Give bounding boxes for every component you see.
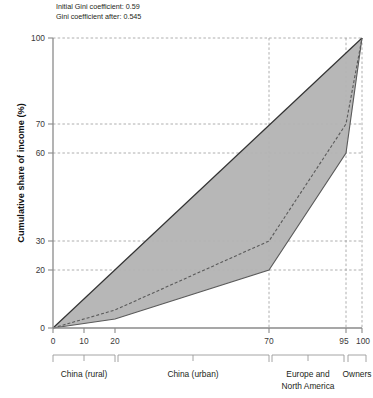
group-label-owners: Owners <box>343 369 372 379</box>
bracket-china-rural <box>53 355 115 362</box>
bracket-europe-north-america <box>272 355 344 362</box>
x-tick-label-95: 95 <box>339 336 349 346</box>
chart-root: Initial Gini coefficient: 0.59 Gini coef… <box>0 0 373 398</box>
x-tick-label-10: 10 <box>79 336 89 346</box>
x-tick-label-20: 20 <box>110 336 120 346</box>
group-label-china-urban: China (urban) <box>167 369 218 379</box>
y-tick-label-100: 100 <box>31 33 45 43</box>
x-tick-label-100: 100 <box>356 336 370 346</box>
y-tick-label-60: 60 <box>36 148 46 158</box>
x-tick-marks <box>53 328 362 333</box>
group-brackets <box>53 355 366 362</box>
group-label-europe-line1: Europe and <box>286 369 330 379</box>
y-tick-label-30: 30 <box>36 236 46 246</box>
bracket-owners <box>348 355 366 362</box>
lorenz-chart-svg: 100 70 60 30 20 0 0 10 20 70 95 100 <box>0 0 373 398</box>
group-label-europe-line2: North America <box>281 381 334 391</box>
y-tick-label-70: 70 <box>36 119 46 129</box>
x-tick-label-70: 70 <box>264 336 274 346</box>
group-label-china-rural: China (rural) <box>61 369 108 379</box>
y-tick-label-20: 20 <box>36 265 46 275</box>
x-tick-label-0: 0 <box>51 336 56 346</box>
y-tick-label-0: 0 <box>40 323 45 333</box>
bracket-china-urban <box>118 355 269 362</box>
y-tick-marks <box>48 38 53 328</box>
